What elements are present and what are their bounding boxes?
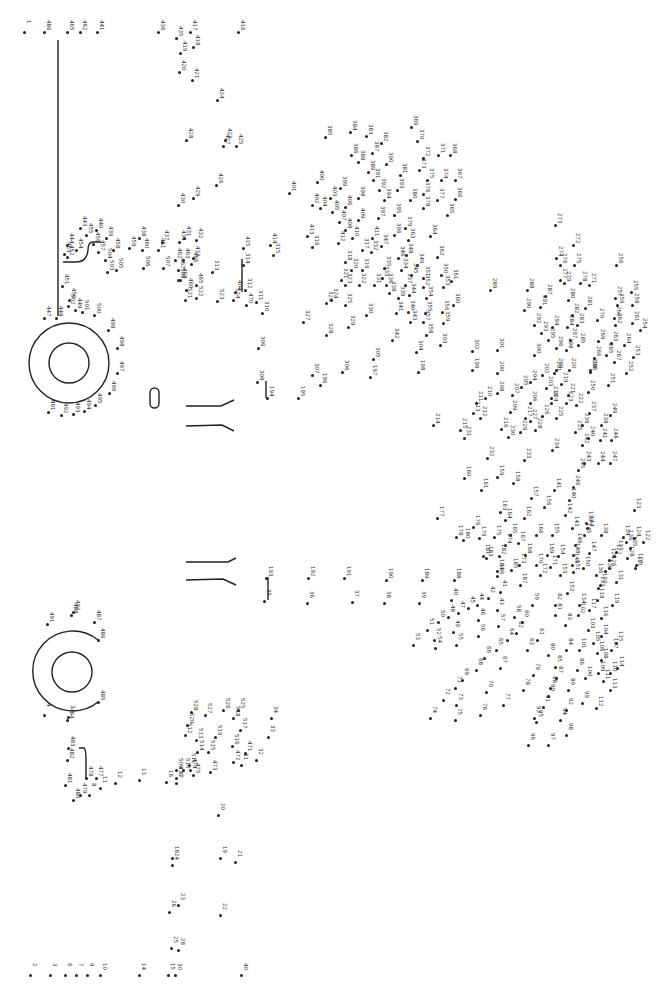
dot-number-label: 271: [591, 273, 597, 284]
dot-number-label: 439: [108, 226, 114, 237]
dot-number-label: 123: [636, 498, 642, 509]
puzzle-dot: [502, 704, 505, 707]
puzzle-dot: [49, 974, 52, 977]
puzzle-dot: [219, 857, 222, 860]
dot-number-label: 83: [567, 613, 573, 620]
dot-number-label: 117: [591, 598, 597, 609]
puzzle-dot: [515, 632, 518, 635]
puzzle-dot: [64, 974, 67, 977]
puzzle-dot: [81, 311, 84, 314]
dot-number-label: 69: [464, 668, 470, 675]
dot-number-label: 14: [141, 963, 147, 970]
dot-number-label: 36: [309, 591, 315, 598]
puzzle-dot: [288, 192, 291, 195]
dot-number-label: 58: [516, 605, 522, 612]
dot-number-label: 268: [592, 358, 598, 369]
dot-number-label: 256: [618, 253, 624, 264]
dot-number-label: 175: [496, 525, 502, 536]
dot-number-label: 74: [432, 706, 438, 713]
puzzle-dot: [46, 623, 49, 626]
dot-number-label: 519: [217, 725, 223, 736]
dot-number-label: 297: [572, 328, 578, 339]
dot-number-label: 147: [591, 541, 597, 552]
dot-number-label: 280: [570, 288, 576, 299]
puzzle-dot: [553, 372, 556, 375]
puzzle-dot: [23, 31, 26, 34]
puzzle-dot: [442, 699, 445, 702]
dot-number-label: 480: [75, 788, 81, 799]
dot-number-label: 179: [481, 526, 487, 537]
dot-number-label: 310: [264, 301, 270, 312]
dot-number-label: 22: [222, 903, 228, 910]
dot-number-label: 40: [243, 963, 249, 970]
dot-number-label: 42: [490, 586, 496, 593]
dot-number-label: 167: [520, 531, 526, 542]
dot-number-label: 41: [502, 580, 508, 587]
dot-number-label: 322: [361, 273, 367, 284]
dot-number-label: 400: [319, 170, 325, 181]
puzzle-dot: [532, 674, 535, 677]
dot-number-label: 67: [502, 656, 508, 663]
puzzle-dot: [434, 647, 437, 650]
dot-number-label: 165: [512, 523, 518, 534]
puzzle-dot: [422, 286, 425, 289]
dot-number-label: 492: [63, 403, 69, 414]
dot-number-label: 491: [50, 400, 56, 411]
dot-number-label: 146: [577, 533, 583, 544]
puzzle-dot: [547, 695, 550, 698]
dot-number-label: 300: [536, 343, 542, 354]
dot-number-label: 478: [88, 766, 94, 777]
dot-number-label: 435: [178, 26, 184, 37]
dot-number-label: 160: [466, 466, 472, 477]
dot-number-label: 142: [567, 503, 573, 514]
dot-number-label: 339: [400, 286, 406, 297]
dot-number-label: 18: [174, 846, 180, 853]
puzzle-dot: [195, 297, 198, 300]
dot-number-label: 10: [102, 963, 108, 970]
dot-number-label: 11: [102, 776, 108, 783]
dot-number-label: 3: [52, 963, 58, 967]
dot-number-label: 526: [225, 698, 231, 709]
dot-number-label: 210: [487, 386, 493, 397]
dot-number-label: 401: [291, 181, 297, 192]
dot-number-label: 357: [425, 310, 431, 321]
puzzle-dot: [565, 734, 568, 737]
puzzle-dot: [495, 649, 498, 652]
dot-number-label: 341: [398, 301, 404, 312]
dot-number-label: 293: [543, 321, 549, 332]
dot-number-label: 481: [67, 773, 73, 784]
puzzle-dot: [536, 639, 539, 642]
dot-number-label: 19: [222, 846, 228, 853]
dot-number-label: 138: [603, 523, 609, 534]
puzzle-dot: [564, 514, 567, 517]
dot-number-label: 308: [259, 370, 265, 381]
dot-number-label: 2: [32, 963, 38, 967]
dot-number-label: 498: [110, 318, 116, 329]
dot-number-label: 298: [568, 338, 574, 349]
puzzle-dot: [506, 639, 509, 642]
dot-number-label: 358: [428, 323, 434, 334]
dot-number-label: 334: [403, 258, 409, 269]
puzzle-dot: [244, 289, 247, 292]
dot-number-label: 174: [507, 533, 513, 544]
dot-number-label: 296: [558, 336, 564, 347]
dot-number-label: 195: [300, 386, 306, 397]
dot-number-label: 294: [554, 315, 560, 326]
dot-number-label: 78: [525, 678, 531, 685]
dot-number-label: 176: [475, 515, 481, 526]
dot-number-label: 327: [305, 310, 311, 321]
dot-number-label: 193: [268, 566, 274, 577]
dot-number-label: 87: [558, 666, 564, 673]
dot-number-label: 209: [512, 400, 518, 411]
puzzle-dot: [358, 284, 361, 287]
dot-number-label: 112: [598, 696, 604, 707]
dot-number-label: 129: [611, 548, 617, 559]
dot-number-label: 223: [568, 391, 574, 402]
dot-number-label: 92: [568, 698, 574, 705]
dot-number-label: 498: [119, 336, 125, 347]
dot-number-label: 501: [84, 300, 90, 311]
dot-number-label: 77: [505, 693, 511, 700]
puzzle-dot: [471, 350, 474, 353]
dot-number-label: 242: [584, 433, 590, 444]
dot-number-label: 158: [515, 471, 521, 482]
